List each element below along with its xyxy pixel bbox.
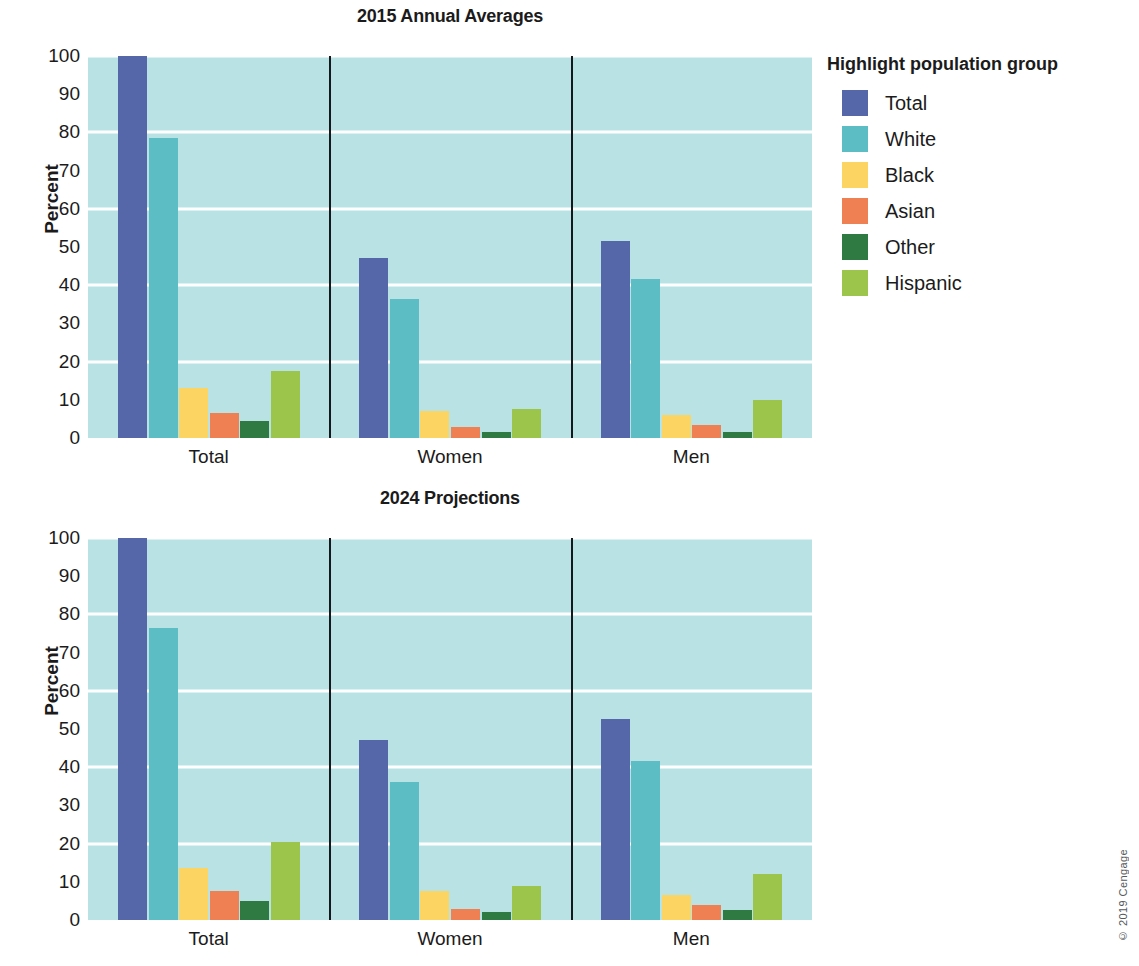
legend-items: TotalWhiteBlackAsianOtherHispanic xyxy=(824,85,1124,301)
gridline xyxy=(88,766,812,769)
bar-total-hispanic xyxy=(271,371,300,438)
legend-item-label: Asian xyxy=(885,200,935,223)
y-axis-tick-label: 60 xyxy=(26,680,80,702)
y-axis-tick-label: 70 xyxy=(26,160,80,182)
legend-item-label: Other xyxy=(885,236,935,259)
bar-men-white xyxy=(631,279,660,438)
legend-item-label: Total xyxy=(885,92,927,115)
legend-item-total[interactable]: Total xyxy=(824,85,1124,121)
bar-total-black xyxy=(179,868,208,920)
bar-men-white xyxy=(631,761,660,920)
y-axis-tick-label: 0 xyxy=(26,427,80,449)
legend-item-asian[interactable]: Asian xyxy=(824,193,1124,229)
y-axis-tick-label: 30 xyxy=(26,312,80,334)
bar-total-black xyxy=(179,388,208,438)
legend-title: Highlight population group xyxy=(827,54,1124,75)
gridline xyxy=(88,689,812,692)
bar-total-asian xyxy=(210,413,239,438)
y-axis-tick-label: 80 xyxy=(26,121,80,143)
chart-panel-2024: 2024 Projections Percent 010203040506070… xyxy=(0,482,830,960)
legend: Highlight population group TotalWhiteBla… xyxy=(824,54,1124,301)
chart-panel-2015: 2015 Annual Averages Percent 01020304050… xyxy=(0,0,830,478)
x-axis-tick-label: Women xyxy=(417,446,482,468)
bar-women-total xyxy=(359,740,388,920)
x-axis-tick-label: Men xyxy=(673,446,710,468)
y-axis-tick-label: 0 xyxy=(26,909,80,931)
gridline xyxy=(88,131,812,134)
bar-women-other xyxy=(482,432,511,438)
bar-women-asian xyxy=(451,427,480,438)
legend-item-black[interactable]: Black xyxy=(824,157,1124,193)
bar-men-black xyxy=(662,895,691,920)
y-axis-tick-label: 50 xyxy=(26,236,80,258)
y-axis-tick-label: 100 xyxy=(26,45,80,67)
bar-women-black xyxy=(420,411,449,438)
bar-men-hispanic xyxy=(753,874,782,920)
bar-men-total xyxy=(601,719,630,920)
chart-title: 2024 Projections xyxy=(88,488,812,509)
bar-men-asian xyxy=(692,425,721,438)
legend-item-hispanic[interactable]: Hispanic xyxy=(824,265,1124,301)
legend-swatch-icon xyxy=(842,162,868,188)
bar-men-other xyxy=(723,910,752,920)
bar-total-asian xyxy=(210,891,239,920)
bar-men-other xyxy=(723,432,752,438)
chart-title: 2015 Annual Averages xyxy=(88,6,812,27)
bar-total-hispanic xyxy=(271,842,300,920)
bar-women-hispanic xyxy=(512,409,541,438)
y-axis-tick-label: 60 xyxy=(26,198,80,220)
legend-swatch-icon xyxy=(842,90,868,116)
bar-men-hispanic xyxy=(753,400,782,438)
y-axis-tick-label: 90 xyxy=(26,83,80,105)
x-axis-tick-label: Men xyxy=(673,928,710,950)
gridline xyxy=(88,284,812,287)
legend-item-other[interactable]: Other xyxy=(824,229,1124,265)
y-axis-tick-label: 90 xyxy=(26,565,80,587)
y-axis-tick-label: 100 xyxy=(26,527,80,549)
bar-women-white xyxy=(390,782,419,920)
gridline xyxy=(88,613,812,616)
x-axis-tick-label: Women xyxy=(417,928,482,950)
gridline xyxy=(88,56,812,58)
bar-total-white xyxy=(149,628,178,920)
legend-swatch-icon xyxy=(842,270,868,296)
legend-swatch-icon xyxy=(842,234,868,260)
legend-item-label: Black xyxy=(885,164,934,187)
y-axis-tick-label: 10 xyxy=(26,389,80,411)
y-axis-tick-label: 30 xyxy=(26,794,80,816)
bar-women-white xyxy=(390,299,419,438)
y-axis-tick-label: 20 xyxy=(26,833,80,855)
y-axis-tick-label: 40 xyxy=(26,274,80,296)
group-separator xyxy=(329,56,331,438)
legend-item-white[interactable]: White xyxy=(824,121,1124,157)
y-axis-tick-label: 40 xyxy=(26,756,80,778)
y-axis-tick-label: 70 xyxy=(26,642,80,664)
group-separator xyxy=(571,538,573,920)
copyright-credit: © 2019 Cengage xyxy=(1117,849,1129,942)
legend-swatch-icon xyxy=(842,198,868,224)
bar-total-white xyxy=(149,138,178,438)
bar-total-total xyxy=(118,538,147,920)
bar-women-other xyxy=(482,912,511,920)
y-axis-ticks: 0102030405060708090100 xyxy=(0,482,80,960)
gridline xyxy=(88,842,812,845)
bar-women-hispanic xyxy=(512,886,541,920)
gridline xyxy=(88,207,812,210)
bar-men-total xyxy=(601,241,630,438)
bar-total-other xyxy=(240,421,269,438)
gridline xyxy=(88,360,812,363)
x-axis-tick-label: Total xyxy=(189,446,229,468)
y-axis-tick-label: 50 xyxy=(26,718,80,740)
x-axis-tick-label: Total xyxy=(189,928,229,950)
gridline xyxy=(88,538,812,540)
bar-women-asian xyxy=(451,909,480,920)
legend-item-label: Hispanic xyxy=(885,272,962,295)
bar-total-other xyxy=(240,901,269,920)
plot-area xyxy=(88,538,812,920)
y-axis-tick-label: 80 xyxy=(26,603,80,625)
legend-swatch-icon xyxy=(842,126,868,152)
bar-total-total xyxy=(118,56,147,438)
bar-men-asian xyxy=(692,905,721,920)
y-axis-tick-label: 10 xyxy=(26,871,80,893)
group-separator xyxy=(329,538,331,920)
